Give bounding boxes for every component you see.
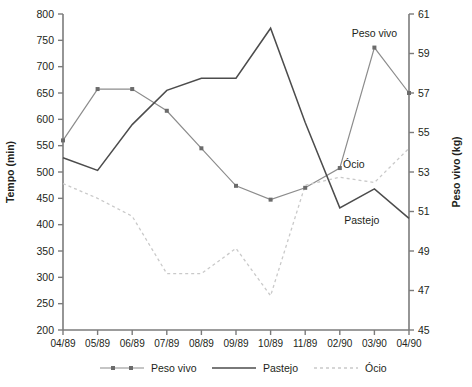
left-axis-tick-labels: 200250300350400450500550600650700750800 — [36, 8, 54, 336]
right-tick-label: 53 — [418, 166, 430, 178]
right-tick-label: 47 — [418, 284, 430, 296]
right-axis-tick-labels: 454749515355575961 — [418, 8, 430, 336]
left-tick-label: 750 — [36, 34, 54, 46]
right-tick-label: 45 — [418, 324, 430, 336]
x-tick-label: 08/89 — [189, 338, 214, 349]
x-tick-label: 04/90 — [396, 338, 421, 349]
x-tick-label: 11/89 — [293, 338, 318, 349]
data-point-marker — [234, 184, 238, 188]
series-line-peso-vivo — [63, 48, 409, 200]
data-point-marker — [338, 166, 342, 170]
x-tick-label: 07/89 — [154, 338, 179, 349]
x-tick-label: 05/89 — [85, 338, 110, 349]
x-tick-label: 09/89 — [223, 338, 248, 349]
annotation-ócio: Ócio — [343, 158, 365, 170]
data-point-marker — [61, 138, 65, 142]
data-point-marker — [165, 109, 169, 113]
right-tick-label: 49 — [418, 245, 430, 257]
right-tick-label: 51 — [418, 205, 430, 217]
x-tick-label: 03/90 — [362, 338, 387, 349]
right-axis-title: Peso vivo (kg) — [450, 136, 462, 207]
legend-label: Peso vivo — [151, 362, 197, 374]
right-tick-label: 61 — [418, 8, 430, 20]
left-tick-label: 300 — [36, 271, 54, 283]
x-axis-tick-labels: 04/8905/8906/8907/8908/8909/8910/8911/89… — [50, 338, 421, 349]
data-point-marker — [96, 87, 100, 91]
x-tick-label: 06/89 — [120, 338, 145, 349]
right-tick-label: 57 — [418, 87, 430, 99]
chart-container: 200250300350400450500550600650700750800 … — [0, 0, 472, 387]
data-point-marker — [372, 46, 376, 50]
x-tick-label: 02/90 — [327, 338, 352, 349]
left-tick-label: 550 — [36, 139, 54, 151]
right-tick-label: 55 — [418, 126, 430, 138]
annotation-peso-vivo: Peso vivo — [352, 27, 398, 39]
line-chart: 200250300350400450500550600650700750800 … — [0, 0, 472, 387]
left-tick-label: 350 — [36, 245, 54, 257]
legend-swatch-marker — [111, 366, 115, 370]
left-tick-label: 600 — [36, 113, 54, 125]
left-tick-label: 500 — [36, 166, 54, 178]
left-tick-label: 250 — [36, 297, 54, 309]
plot-annotations-group: Peso vivoÓcioPastejo — [343, 27, 397, 226]
data-point-marker — [199, 146, 203, 150]
right-tick-label: 59 — [418, 47, 430, 59]
left-tick-label: 450 — [36, 192, 54, 204]
left-tick-label: 400 — [36, 218, 54, 230]
chart-legend: Peso vivoPastejoÓcio — [100, 362, 387, 374]
data-point-marker — [269, 198, 273, 202]
x-tick-label: 10/89 — [258, 338, 283, 349]
right-axis: 454749515355575961 Peso vivo (kg) — [409, 8, 462, 336]
series-line-pastejo — [63, 28, 409, 218]
plot-markers-group — [61, 46, 411, 202]
legend-label: Ócio — [365, 362, 387, 374]
legend-item-ócio: Ócio — [314, 362, 387, 374]
left-tick-label: 650 — [36, 87, 54, 99]
legend-item-peso-vivo: Peso vivo — [100, 362, 197, 374]
x-tick-label: 04/89 — [50, 338, 75, 349]
legend-label: Pastejo — [263, 362, 298, 374]
left-tick-label: 800 — [36, 8, 54, 20]
data-point-marker — [303, 186, 307, 190]
x-axis: 04/8905/8906/8907/8908/8909/8910/8911/89… — [50, 330, 421, 349]
legend-item-pastejo: Pastejo — [212, 362, 298, 374]
left-tick-label: 700 — [36, 60, 54, 72]
data-point-marker — [130, 87, 134, 91]
left-tick-label: 200 — [36, 324, 54, 336]
annotation-pastejo: Pastejo — [344, 214, 379, 226]
legend-swatch-marker — [129, 366, 133, 370]
left-axis-title: Tempo (min) — [4, 141, 16, 203]
data-point-marker — [407, 91, 411, 95]
left-axis: 200250300350400450500550600650700750800 … — [4, 8, 63, 336]
